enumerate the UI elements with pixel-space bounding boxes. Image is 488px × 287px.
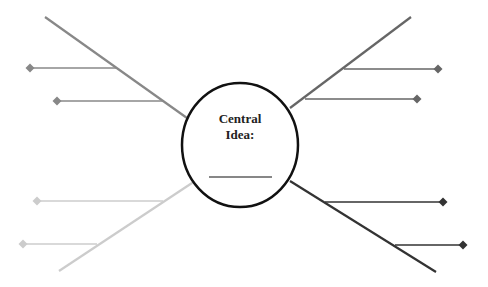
spoke-line (290, 181, 436, 272)
diamond-bullet-icon (33, 197, 42, 206)
diamond-bullet-icon (53, 97, 62, 106)
diamond-bullet-icon (413, 95, 422, 104)
diamond-bullet-icon (439, 198, 448, 207)
diamond-bullet-icon (434, 65, 443, 74)
spoke-top-left (26, 17, 188, 118)
diamond-bullet-icon (19, 240, 28, 249)
spoke-bottom-right (290, 181, 468, 272)
spoke-line (59, 181, 195, 271)
spider-map-diagram (0, 0, 488, 287)
central-idea-label: Central Idea: (200, 111, 280, 143)
diamond-bullet-icon (459, 241, 468, 250)
central-idea-circle (182, 83, 298, 207)
central-idea-label-line1: Central (200, 111, 280, 127)
spoke-line (290, 17, 411, 108)
spoke-top-right (290, 17, 443, 108)
spoke-bottom-left (19, 181, 196, 271)
diamond-bullet-icon (26, 64, 35, 73)
central-idea-label-line2: Idea: (200, 127, 280, 143)
